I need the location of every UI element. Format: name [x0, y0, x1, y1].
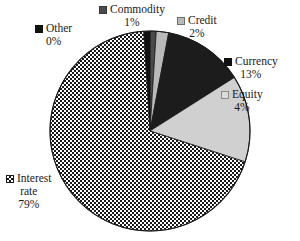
currency-label-text: Currency: [235, 55, 278, 68]
currency-label-value: 13%: [224, 68, 278, 81]
credit-swatch-icon: [177, 17, 185, 25]
pie-label-equity: Equity 4%: [221, 88, 263, 114]
interest-rate-label-text-line2: rate: [6, 185, 51, 198]
pie-label-interest-rate: Interest rate 79%: [6, 172, 51, 211]
interest-rate-label-value: 79%: [6, 198, 51, 211]
other-swatch-icon: [35, 25, 43, 33]
equity-label-text: Equity: [232, 88, 263, 101]
pie-label-commodity: Commodity 1%: [99, 3, 165, 29]
pie-label-credit: Credit 2%: [177, 14, 217, 40]
pie-label-other: Other 0%: [35, 22, 72, 48]
other-label-value: 0%: [35, 35, 72, 48]
commodity-swatch-icon: [99, 6, 107, 14]
currency-swatch-icon: [224, 58, 232, 66]
credit-label-value: 2%: [177, 27, 217, 40]
other-label-text: Other: [46, 22, 72, 35]
equity-swatch-icon: [221, 91, 229, 99]
commodity-label-value: 1%: [99, 16, 165, 29]
commodity-label-text: Commodity: [110, 3, 165, 16]
pie-label-currency: Currency 13%: [224, 55, 278, 81]
equity-label-value: 4%: [221, 101, 263, 114]
interest-rate-label-text: Interest: [17, 172, 51, 185]
pie-chart: Commodity 1% Credit 2% Other 0% Currency…: [0, 0, 300, 241]
interest-rate-swatch-icon: [6, 175, 14, 183]
credit-label-text: Credit: [188, 14, 217, 27]
